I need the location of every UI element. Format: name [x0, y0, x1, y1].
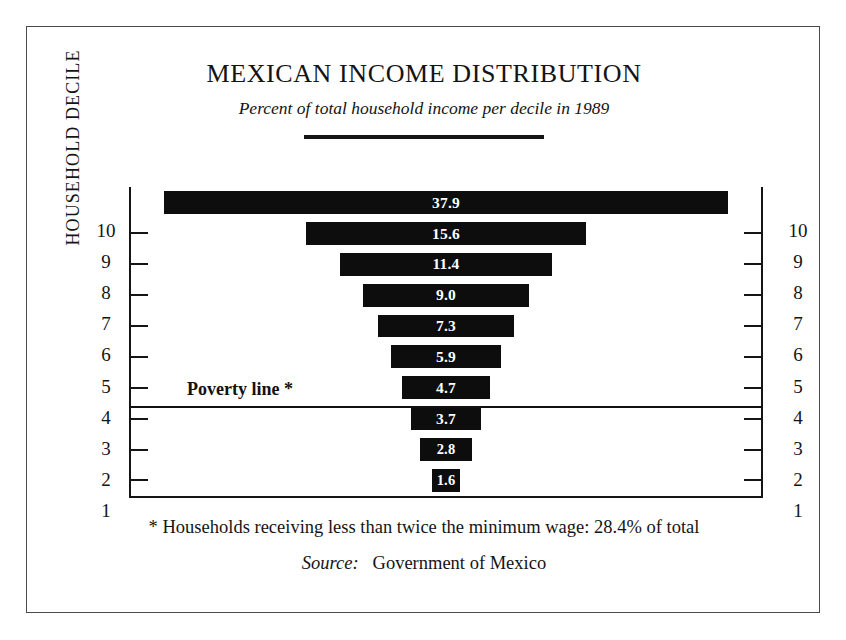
bar-row: 37.9 — [131, 187, 761, 218]
bar-value-label: 7.3 — [436, 318, 456, 334]
source-line: Source: Government of Mexico — [27, 553, 821, 574]
left-axis-label-8: 8 — [89, 283, 123, 302]
right-axis-label-6: 6 — [781, 345, 815, 364]
bar-value-label: 37.9 — [432, 195, 460, 211]
figure-frame: MEXICAN INCOME DISTRIBUTION Percent of t… — [26, 26, 820, 613]
title-block: MEXICAN INCOME DISTRIBUTION Percent of t… — [27, 59, 821, 139]
poverty-line-label: Poverty line * — [187, 379, 293, 400]
left-tick — [131, 294, 148, 296]
bar-value-label: 9.0 — [436, 287, 456, 303]
bar-row: 7.3 — [131, 311, 761, 342]
left-tick — [131, 263, 148, 265]
bar-decile-9: 15.6 — [306, 222, 586, 245]
right-axis-label-10: 10 — [781, 221, 815, 240]
footnote-text: * Households receiving less than twice t… — [27, 517, 821, 538]
left-tick — [131, 449, 148, 451]
source-value: Government of Mexico — [373, 553, 547, 573]
right-axis-label-3: 3 — [781, 439, 815, 458]
right-axis-label-5: 5 — [781, 377, 815, 396]
left-tick — [131, 479, 148, 481]
bar-decile-8: 11.4 — [340, 253, 551, 276]
left-tick — [131, 356, 148, 358]
bar-row: 2.8 — [131, 434, 761, 465]
bar-row: 5.9 — [131, 341, 761, 372]
left-tick — [131, 418, 148, 420]
left-axis-label-7: 7 — [89, 314, 123, 333]
bar-row: 11.4 — [131, 249, 761, 280]
bar-decile-4: 4.7 — [402, 376, 490, 399]
right-tick — [744, 325, 761, 327]
bar-value-label: 3.7 — [436, 411, 456, 427]
right-tick — [744, 479, 761, 481]
left-axis-label-4: 4 — [89, 408, 123, 427]
bar-decile-2: 2.8 — [420, 438, 472, 461]
y-axis-title: HOUSEHOLD DECILE — [63, 18, 84, 278]
left-tick — [131, 232, 148, 234]
left-tick — [131, 325, 148, 327]
right-tick — [744, 232, 761, 234]
right-axis-label-9: 9 — [781, 252, 815, 271]
left-axis-label-9: 9 — [89, 252, 123, 271]
poverty-line-rule — [129, 406, 763, 408]
bar-decile-5: 5.9 — [391, 345, 501, 368]
left-axis-label-2: 2 — [89, 470, 123, 489]
bar-decile-7: 9.0 — [363, 284, 530, 307]
plot-area: 37.9 15.6 11.4 9.0 — [129, 187, 763, 498]
right-axis-label-4: 4 — [781, 408, 815, 427]
right-tick — [744, 356, 761, 358]
left-axis-label-10: 10 — [89, 221, 123, 240]
bar-decile-3: 3.7 — [411, 407, 480, 430]
right-axis-label-7: 7 — [781, 314, 815, 333]
right-tick — [744, 418, 761, 420]
bar-decile-10: 37.9 — [164, 191, 728, 214]
left-tick — [131, 387, 148, 389]
bar-value-label: 4.7 — [436, 380, 456, 396]
right-tick — [744, 449, 761, 451]
left-axis-label-5: 5 — [89, 377, 123, 396]
bar-row: 9.0 — [131, 280, 761, 311]
right-axis-label-2: 2 — [781, 470, 815, 489]
title-divider-rule — [304, 135, 544, 139]
bar-value-label: 1.6 — [437, 473, 456, 488]
left-axis-label-3: 3 — [89, 439, 123, 458]
chart-subtitle: Percent of total household income per de… — [27, 98, 821, 119]
bar-decile-6: 7.3 — [378, 315, 513, 338]
bar-value-label: 15.6 — [432, 226, 460, 242]
bar-decile-1: 1.6 — [432, 469, 460, 492]
bar-value-label: 11.4 — [432, 256, 459, 272]
right-tick — [744, 387, 761, 389]
bar-row: 15.6 — [131, 218, 761, 249]
bar-value-label: 5.9 — [436, 349, 456, 365]
chart-title: MEXICAN INCOME DISTRIBUTION — [27, 59, 821, 89]
right-axis-label-8: 8 — [781, 283, 815, 302]
source-prefix: Source: — [302, 553, 359, 573]
bar-row: 1.6 — [131, 465, 761, 496]
right-tick — [744, 263, 761, 265]
right-tick — [744, 294, 761, 296]
left-axis-label-6: 6 — [89, 345, 123, 364]
bar-value-label: 2.8 — [437, 442, 456, 457]
